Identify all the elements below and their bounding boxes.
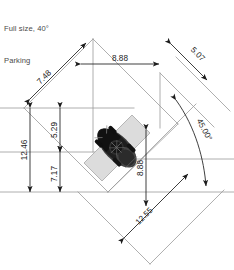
dim-line-7-48 bbox=[30, 43, 86, 99]
dim-line-12-55 bbox=[124, 174, 188, 238]
geom-line-lower-a bbox=[78, 192, 150, 264]
geom-line-band-a bbox=[160, 73, 214, 127]
dimension-45-00-deg: 45.00° bbox=[176, 100, 214, 186]
dim-label-12-46: 12.46 bbox=[20, 139, 29, 160]
dim-label-45-00: 45.00° bbox=[195, 117, 214, 142]
dimension-12-55: 12.55 bbox=[124, 174, 188, 238]
geom-line-nw bbox=[24, 39, 93, 108]
dimension-5-29: 5.29 bbox=[50, 108, 60, 152]
dim-arc-45-00 bbox=[176, 100, 206, 186]
dimension-12-46: 12.46 bbox=[20, 108, 30, 192]
parking-stall-drawing: 7.48 8.88 5.07 12.46 5.29 7.17 45.00° 8.… bbox=[0, 0, 234, 270]
geom-line-ne bbox=[93, 39, 178, 124]
dim-label-12-55: 12.55 bbox=[134, 205, 155, 226]
dim-line-5-07 bbox=[171, 44, 207, 80]
dim-label-5-29: 5.29 bbox=[50, 122, 59, 138]
geom-line-band-b bbox=[176, 57, 230, 111]
dimension-7-48: 7.48 bbox=[30, 43, 86, 99]
dim-label-8-88-top: 8.88 bbox=[112, 54, 128, 63]
dim-label-7-17: 7.17 bbox=[50, 166, 59, 182]
dimension-5-07: 5.07 bbox=[171, 44, 207, 80]
geom-line-sw bbox=[24, 108, 108, 192]
dim-label-5-07: 5.07 bbox=[189, 45, 207, 63]
dim-label-7-48: 7.48 bbox=[35, 68, 53, 86]
dimension-7-17: 7.17 bbox=[50, 152, 60, 192]
dim-label-8-88-right: 8.88 bbox=[136, 160, 145, 176]
